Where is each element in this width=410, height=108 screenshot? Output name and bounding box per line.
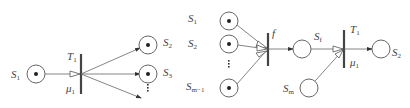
place-sf (293, 40, 311, 58)
arc-sm1-f (237, 51, 266, 84)
right-net: S1 S2 Sm−1 f Sf Sm (186, 12, 402, 97)
place-label-s3: S3 (163, 66, 173, 80)
transition-label-t1-right: T1 (350, 23, 360, 37)
transition-label-f: f (272, 27, 277, 39)
place-label-s1-right: S1 (188, 12, 198, 26)
place-label-sf: Sf (314, 30, 323, 44)
place-label-s2-right: S2 (188, 37, 198, 51)
place-label-s2-right-output: S2 (392, 46, 402, 60)
ellipsis-icon (147, 84, 149, 92)
left-net: S1 T1 μ1 S2 S3 (11, 36, 173, 98)
place-sm-right (300, 79, 318, 97)
arc-t1-s2 (81, 48, 140, 74)
hollow-arrowhead-icon (70, 71, 80, 77)
place-label-s2: S2 (163, 36, 173, 50)
diagram-canvas: S1 T1 μ1 S2 S3 (0, 0, 410, 108)
token-icon (34, 72, 38, 76)
transition-label-t1: T1 (67, 50, 77, 64)
token-icon (146, 43, 150, 47)
rate-label-mu1-right: μ1 (349, 56, 360, 70)
place-s2-right-output (372, 40, 390, 58)
token-icon (227, 86, 231, 90)
rate-label-mu1: μ1 (65, 82, 76, 96)
token-icon (227, 19, 231, 23)
arc-t1-sm (81, 74, 141, 98)
petri-net-diagram: S1 T1 μ1 S2 S3 (0, 0, 410, 108)
ellipsis-icon (228, 60, 230, 68)
token-icon (146, 72, 150, 76)
token-icon (227, 42, 231, 46)
place-label-sm-right: Sm (283, 82, 295, 96)
place-label-sm1-right: Sm−1 (186, 80, 205, 94)
place-label-s1: S1 (11, 68, 21, 82)
